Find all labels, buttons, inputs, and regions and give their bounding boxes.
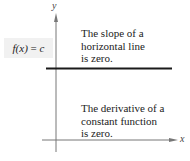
derivative-note: The derivative of a constant function is… <box>81 102 164 140</box>
function-label-equals: = <box>28 42 40 54</box>
slope-note-line: The slope of a <box>81 27 145 40</box>
function-label-rhs: c <box>40 42 45 54</box>
slope-note: The slope of a horizontal line is zero. <box>81 27 145 65</box>
derivative-note-line: The derivative of a <box>81 102 164 115</box>
x-axis-label: x <box>180 133 184 144</box>
derivative-note-line: constant function <box>81 115 164 128</box>
derivative-note-line: is zero. <box>81 127 164 140</box>
function-label: f(x) = c <box>4 38 53 58</box>
function-label-lhs: f(x) <box>13 42 28 54</box>
x-axis-arrow-icon <box>169 138 178 142</box>
y-axis-arrow-icon <box>54 13 58 22</box>
slope-note-line: is zero. <box>81 52 145 65</box>
slope-note-line: horizontal line <box>81 40 145 53</box>
y-axis-label: y <box>52 0 56 11</box>
